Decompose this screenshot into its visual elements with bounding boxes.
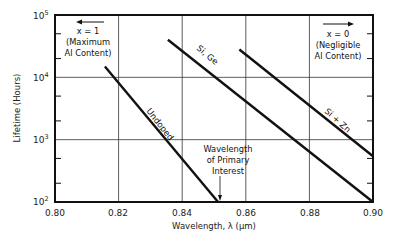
- series-label-undoped: Undoped: [144, 106, 175, 142]
- y-axis-title: Lifetime (Hours): [12, 74, 22, 143]
- x-tick: 0.88: [300, 208, 320, 218]
- arrow-down-icon: [218, 195, 222, 201]
- series-line-si-zn: [239, 50, 373, 157]
- x-tick: 0.80: [45, 208, 65, 218]
- arrow-left-icon: [76, 20, 82, 25]
- svg-text:Wavelength: Wavelength: [203, 144, 252, 154]
- svg-text:Al Content): Al Content): [315, 51, 362, 61]
- annotation-x-equals-0: x = 0 (Negligible Al Content): [315, 22, 362, 62]
- y-tick-100000: 105: [33, 9, 49, 21]
- arrow-right-icon: [348, 22, 354, 27]
- x-tick: 0.90: [363, 208, 383, 218]
- x-axis-title: Wavelength, λ (μm): [172, 221, 256, 231]
- svg-text:(Maximum: (Maximum: [66, 37, 110, 47]
- svg-text:Al Content): Al Content): [65, 48, 112, 58]
- svg-text:Interest: Interest: [212, 166, 245, 176]
- y-tick-labels: 102 103 104 105: [33, 9, 49, 207]
- annotation-x-equals-1: x = 1 (Maximum Al Content): [65, 20, 112, 59]
- svg-text:x = 0: x = 0: [327, 29, 349, 39]
- x-tick: 0.84: [172, 208, 192, 218]
- svg-text:x = 1: x = 1: [77, 26, 99, 36]
- svg-text:(Negligible: (Negligible: [316, 40, 361, 50]
- series-line-undoped: [105, 66, 218, 202]
- y-tick-1000: 103: [33, 133, 49, 145]
- x-tick-labels: 0.80 0.82 0.84 0.86 0.88 0.90: [45, 208, 383, 218]
- x-tick: 0.82: [108, 208, 128, 218]
- y-tick-10000: 104: [33, 71, 49, 83]
- y-tick-100: 102: [33, 195, 49, 207]
- lifetime-vs-wavelength-chart: 102 103 104 105 0.80 0.82 0.84 0.86 0.88…: [0, 0, 395, 242]
- svg-text:of Primary: of Primary: [207, 155, 250, 165]
- x-tick: 0.86: [236, 208, 256, 218]
